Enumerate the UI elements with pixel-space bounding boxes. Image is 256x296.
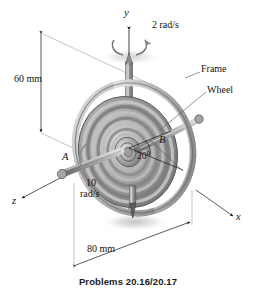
angle-20-label: 20°	[137, 152, 150, 162]
axis-x-label: x	[236, 212, 241, 223]
point-b-label: B	[159, 135, 165, 146]
wheel-label: Wheel	[207, 85, 233, 95]
figure-caption: Problems 20.16/20.17	[0, 276, 256, 287]
gyroscope-illustration	[0, 0, 256, 296]
frame-label: Frame	[201, 64, 227, 74]
axis-z-label: z	[12, 196, 16, 207]
spin-rate-label-line1: 10	[86, 178, 96, 188]
axis-y-label: y	[124, 7, 129, 18]
spin-rate-label-line2: rad/s	[80, 189, 99, 199]
axis-z	[22, 177, 62, 198]
axis-x	[196, 190, 233, 216]
dimension-80mm-label: 80 mm	[87, 244, 115, 254]
point-a-label: A	[62, 152, 68, 163]
dimension-60mm-label: 60 mm	[14, 74, 42, 84]
figure-diagram: y 2 rad/s Frame Wheel 60 mm 80 mm A B 20…	[0, 0, 256, 296]
precession-rate-label: 2 rad/s	[152, 20, 179, 30]
